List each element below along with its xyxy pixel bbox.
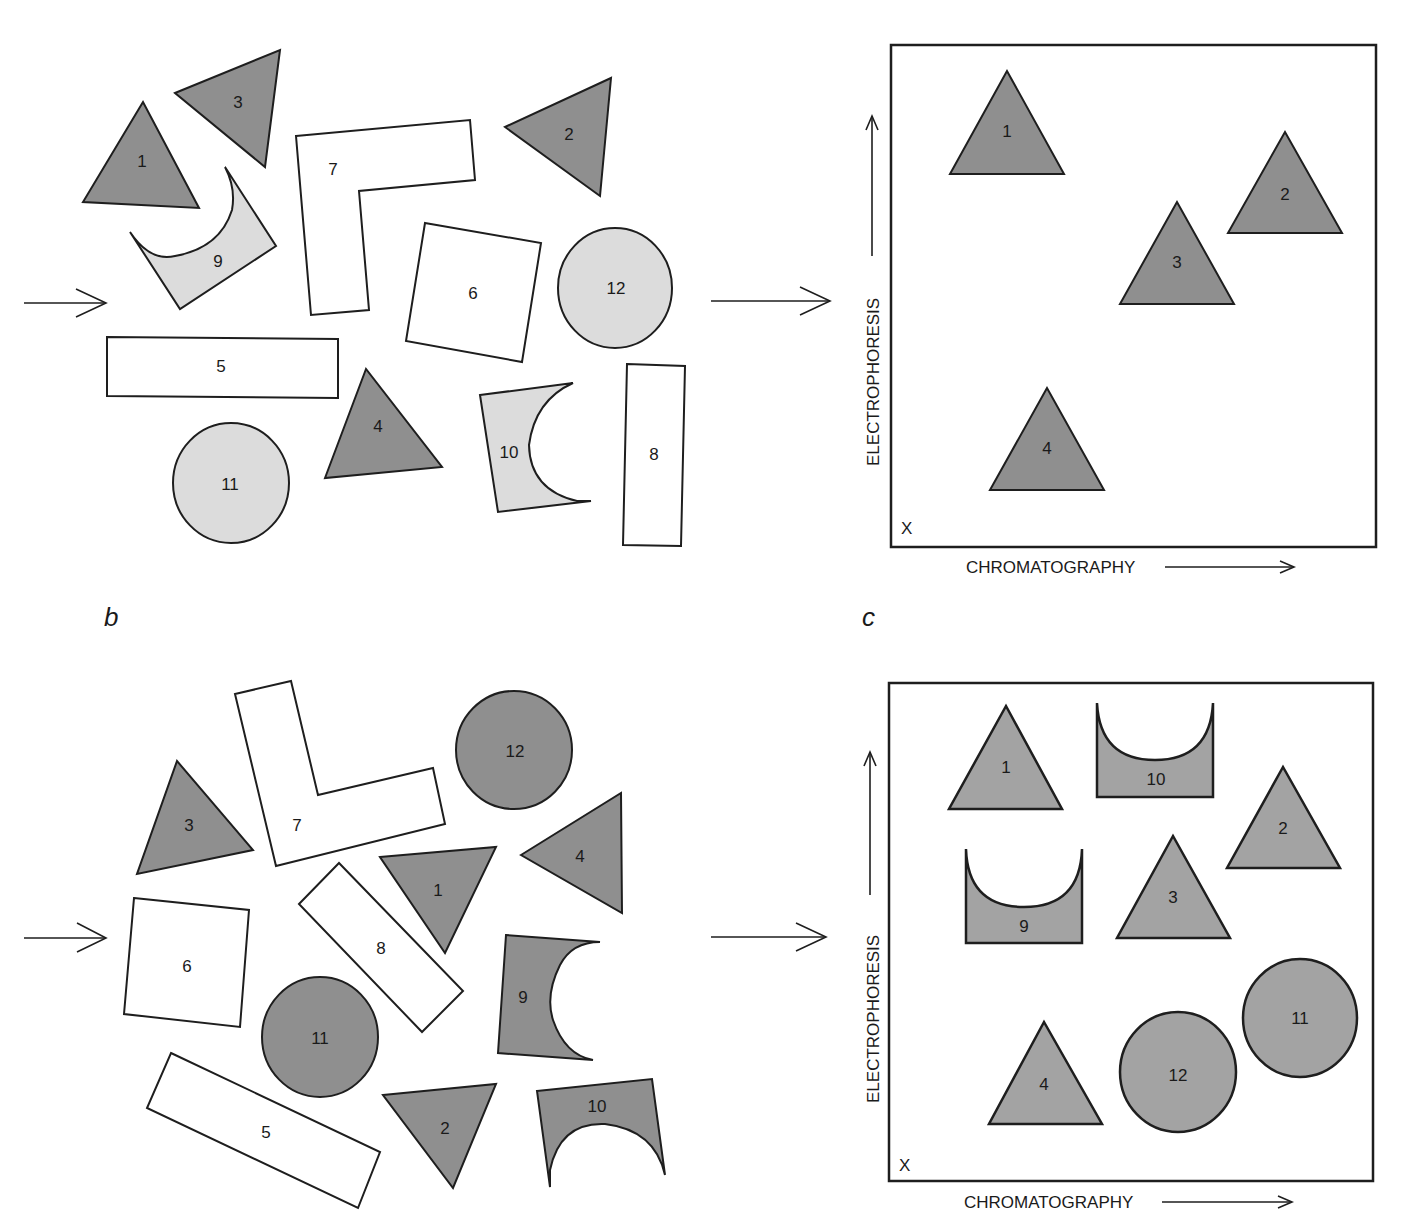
svg-text:8: 8 (649, 445, 658, 464)
svg-text:4: 4 (575, 847, 584, 866)
spot-2: 2 (1227, 767, 1340, 868)
mixture-a: 1 3 2 7 9 6 12 (24, 50, 830, 546)
shape-6-square: 6 (124, 898, 249, 1027)
svg-text:1: 1 (1002, 122, 1011, 141)
svg-text:12: 12 (607, 279, 626, 298)
separation-map-c: ELECTROPHORESIS CHROMATOGRAPHY X 1 10 2 … (864, 683, 1373, 1212)
shape-7-l: 7 (235, 681, 445, 866)
shape-2-triangle: 2 (505, 78, 611, 196)
svg-text:2: 2 (564, 125, 573, 144)
svg-text:11: 11 (1291, 1009, 1309, 1028)
svg-text:12: 12 (506, 742, 525, 761)
figure-canvas: 1 3 2 7 9 6 12 (0, 0, 1416, 1232)
shape-9-crescent: 9 (498, 935, 600, 1060)
svg-text:6: 6 (182, 957, 191, 976)
shape-12-circle: 12 (558, 228, 672, 348)
shape-6-square: 6 (406, 223, 541, 362)
svg-text:4: 4 (1042, 439, 1051, 458)
svg-text:9: 9 (518, 988, 527, 1007)
input-arrow-icon (24, 289, 106, 317)
svg-text:2: 2 (440, 1119, 449, 1138)
origin-marker: X (901, 519, 912, 538)
svg-text:10: 10 (588, 1097, 607, 1116)
spot-3: 3 (1120, 202, 1234, 304)
shape-4-triangle: 4 (325, 369, 442, 478)
x-axis-arrow-icon (1162, 1196, 1292, 1208)
svg-text:5: 5 (216, 357, 225, 376)
shape-11-circle: 11 (262, 977, 378, 1097)
svg-text:3: 3 (184, 816, 193, 835)
y-axis-arrow-icon (864, 752, 876, 895)
shape-4-triangle: 4 (521, 793, 622, 913)
spot-3: 3 (1117, 836, 1230, 938)
mixture-b: 7 12 3 4 1 8 6 (24, 681, 826, 1208)
spot-1: 1 (949, 706, 1062, 809)
shape-12-circle: 12 (456, 691, 572, 809)
spot-4: 4 (989, 1022, 1102, 1124)
panel-label-c: c (862, 602, 875, 632)
svg-text:10: 10 (1147, 770, 1166, 789)
spot-12: 12 (1120, 1012, 1236, 1132)
svg-text:8: 8 (376, 939, 385, 958)
shape-3-triangle: 3 (137, 761, 253, 874)
svg-text:1: 1 (433, 881, 442, 900)
svg-text:3: 3 (1168, 888, 1177, 907)
shape-11-circle: 11 (173, 423, 289, 543)
shape-2-triangle: 2 (383, 1084, 496, 1188)
spot-1: 1 (950, 71, 1064, 174)
svg-text:9: 9 (213, 252, 222, 271)
svg-text:4: 4 (373, 417, 382, 436)
panel-label-b: b (104, 602, 118, 632)
shape-8-rectangle: 8 (623, 364, 685, 546)
x-axis-arrow-icon (1165, 561, 1294, 573)
y-axis-label: ELECTROPHORESIS (864, 935, 883, 1103)
output-arrow-icon (711, 923, 826, 951)
spot-2: 2 (1228, 132, 1342, 233)
shape-10-crescent: 10 (537, 1079, 665, 1187)
svg-text:3: 3 (1172, 253, 1181, 272)
input-arrow-icon (24, 923, 106, 952)
svg-text:12: 12 (1169, 1066, 1188, 1085)
spot-10: 10 (1097, 703, 1213, 797)
svg-text:6: 6 (468, 284, 477, 303)
svg-text:11: 11 (311, 1029, 329, 1048)
spot-9: 9 (966, 849, 1082, 943)
svg-text:2: 2 (1280, 185, 1289, 204)
svg-text:5: 5 (261, 1123, 270, 1142)
x-axis-label: CHROMATOGRAPHY (964, 1193, 1133, 1212)
y-axis-label: ELECTROPHORESIS (864, 298, 883, 466)
output-arrow-icon (711, 287, 830, 315)
svg-text:4: 4 (1039, 1075, 1048, 1094)
x-axis-label: CHROMATOGRAPHY (966, 558, 1135, 577)
y-axis-arrow-icon (866, 116, 878, 256)
svg-text:9: 9 (1019, 917, 1028, 936)
svg-text:3: 3 (233, 93, 242, 112)
separation-map-a: ELECTROPHORESIS CHROMATOGRAPHY X 1 2 3 4 (864, 45, 1376, 577)
shape-10-crescent: 10 (480, 383, 591, 512)
shape-5-rectangle: 5 (107, 337, 338, 398)
svg-text:7: 7 (292, 816, 301, 835)
svg-text:2: 2 (1278, 819, 1287, 838)
svg-text:10: 10 (500, 443, 519, 462)
svg-text:1: 1 (1001, 758, 1010, 777)
svg-text:1: 1 (137, 152, 146, 171)
svg-text:7: 7 (328, 160, 337, 179)
shape-3-triangle: 3 (175, 50, 280, 167)
spot-4: 4 (990, 388, 1104, 490)
shape-1-triangle: 1 (83, 102, 199, 208)
svg-text:11: 11 (221, 475, 239, 494)
origin-marker: X (899, 1156, 910, 1175)
spot-11: 11 (1243, 959, 1357, 1077)
